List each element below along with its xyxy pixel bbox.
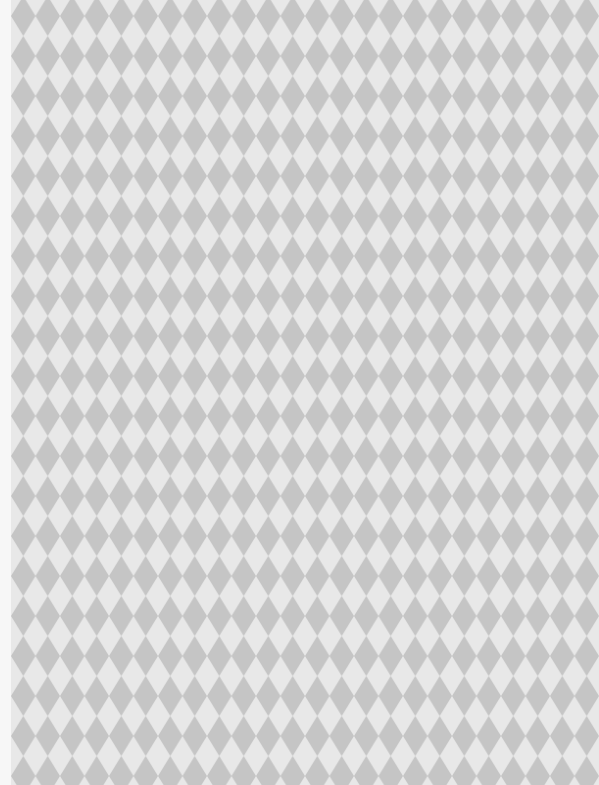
left-edge-strip: [0, 0, 11, 785]
diamond-pattern: [11, 0, 599, 785]
